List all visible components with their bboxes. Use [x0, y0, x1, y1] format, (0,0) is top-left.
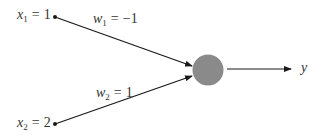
input-label-x1: x1=1 [17, 8, 51, 23]
weight-label-w2: w2=1 [96, 86, 133, 101]
var-w: w [96, 85, 105, 100]
equals-sign: = [28, 7, 44, 22]
neuron-node [193, 55, 224, 86]
equals-sign: = [107, 11, 123, 26]
weight-label-w1: w1=−1 [93, 12, 138, 27]
neuron-diagram: x1=1 x2=2 w1=−1 w2=1 y [0, 0, 325, 140]
var-w: w [93, 11, 102, 26]
weight-value: 1 [126, 85, 133, 100]
equals-sign: = [110, 85, 126, 100]
output-label-y: y [301, 61, 307, 75]
subscript: 2 [23, 122, 28, 132]
var-y: y [301, 60, 307, 75]
subscript: 1 [23, 14, 28, 24]
input-label-x2: x2=2 [17, 116, 51, 131]
input-value: 1 [44, 7, 51, 22]
input-value: 2 [44, 115, 51, 130]
equals-sign: = [28, 115, 44, 130]
weight-value: −1 [123, 11, 138, 26]
subscript: 2 [105, 92, 110, 102]
subscript: 1 [102, 18, 107, 28]
